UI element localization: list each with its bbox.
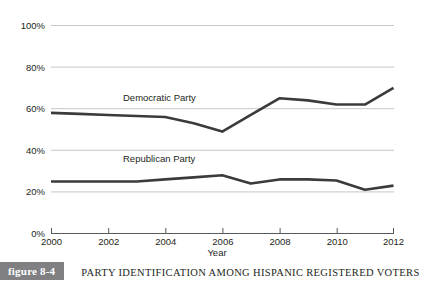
ytick-label-80: 80% — [26, 62, 46, 73]
xtick-label-2010: 2010 — [327, 236, 348, 247]
chart-svg: 100% 80% 60% 40% 20% 0% 2000 2002 2 — [0, 0, 422, 258]
figure-caption-title: PARTY IDENTIFICATION AMONG HISPANIC REGI… — [64, 262, 419, 282]
x-axis-labels: 2000 2002 2004 2006 2008 2010 2012 — [41, 236, 404, 247]
xtick-label-2002: 2002 — [98, 236, 119, 247]
ytick-label-40: 40% — [26, 145, 46, 156]
series-line-democratic-party — [51, 88, 394, 132]
series-line-republican-party — [51, 175, 394, 190]
figure-container: 100% 80% 60% 40% 20% 0% 2000 2002 2 — [0, 0, 422, 286]
figure-number-badge: figure 8-4 — [0, 262, 64, 280]
xtick-label-2006: 2006 — [212, 236, 233, 247]
xtick-label-2008: 2008 — [270, 236, 291, 247]
series-label-democratic-party: Democratic Party — [123, 92, 196, 103]
series-label-republican-group: Republican Party — [122, 152, 206, 165]
y-gridlines — [51, 26, 394, 192]
y-axis-labels: 100% 80% 60% 40% 20% 0% — [21, 20, 46, 239]
figure-caption: figure 8-4 PARTY IDENTIFICATION AMONG HI… — [0, 262, 422, 282]
x-tickmarks — [52, 228, 394, 234]
x-axis-title: Year — [207, 247, 226, 258]
xtick-label-2000: 2000 — [41, 236, 62, 247]
ytick-label-60: 60% — [26, 103, 46, 114]
series-label-republican-party: Republican Party — [123, 153, 196, 164]
xtick-label-2004: 2004 — [155, 236, 176, 247]
ytick-label-100: 100% — [21, 20, 46, 31]
ytick-label-20: 20% — [26, 186, 46, 197]
xtick-label-2012: 2012 — [383, 236, 404, 247]
line-chart: 100% 80% 60% 40% 20% 0% 2000 2002 2 — [0, 0, 422, 258]
series-label-democratic-group: Democratic Party — [122, 91, 206, 104]
